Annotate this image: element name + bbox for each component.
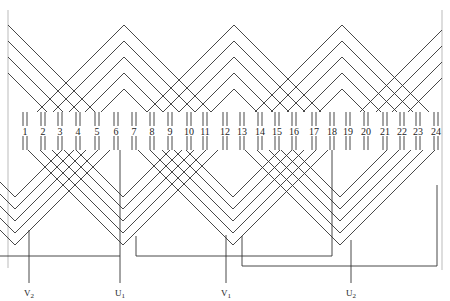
slot-label: 14 [255, 126, 265, 137]
slot-labels: 123456789101112131415161718192021222324 [23, 126, 442, 137]
winding-diagram: 123456789101112131415161718192021222324 … [0, 0, 450, 301]
slot-label: 3 [58, 126, 63, 137]
slot-label: 13 [237, 126, 247, 137]
lead-U1: U1 [115, 150, 126, 300]
slot-label: 4 [76, 126, 81, 137]
top-coil-end [85, 73, 163, 112]
top-coil-end [37, 25, 211, 112]
slot-label: 18 [327, 126, 337, 137]
bottom-coil-end [0, 150, 62, 197]
slot-label: 24 [431, 126, 441, 137]
slot-label: 8 [150, 126, 155, 137]
lead-V2: V2 [24, 230, 35, 300]
bottom-coil-end [0, 150, 86, 221]
bottom-coil-end [186, 150, 280, 197]
top-coil-end [179, 57, 289, 112]
top-coil-end [69, 57, 179, 112]
top-coil-end [101, 89, 147, 112]
top-coil-end [8, 57, 63, 112]
slot-label: 6 [114, 126, 119, 137]
slot-label: 11 [200, 126, 210, 137]
lead-label: U2 [346, 288, 357, 300]
bottom-coil-end [0, 150, 110, 245]
slot-label: 7 [132, 126, 137, 137]
top-coil-end [392, 62, 442, 112]
slot-label: 16 [289, 126, 299, 137]
lead-label: V1 [221, 288, 232, 300]
top-coil-end [147, 25, 321, 112]
lead-V1: V1 [221, 235, 232, 300]
slot-label: 21 [380, 126, 390, 137]
slot-label: 15 [272, 126, 282, 137]
lead-label: V2 [24, 288, 35, 300]
phase-leads: V2U1V1U2 [0, 150, 437, 300]
bottom-coil-end [269, 150, 411, 221]
top-coil-end [8, 73, 47, 112]
slot-label: 17 [309, 126, 319, 137]
slot-label: 22 [397, 126, 407, 137]
lead-label: U1 [115, 288, 126, 300]
bottom-coil-end [76, 150, 170, 197]
slot-label: 19 [343, 126, 353, 137]
top-coil-end [319, 89, 365, 112]
top-coil-end [376, 46, 442, 112]
slot-label: 2 [41, 126, 46, 137]
bottom-coil-end [293, 150, 387, 197]
top-coil-end [271, 41, 413, 112]
slot-label: 9 [168, 126, 173, 137]
top-coil-end [408, 78, 442, 112]
lead-U2: U2 [346, 240, 357, 300]
slot-label: 20 [361, 126, 371, 137]
top-coil-end [8, 41, 79, 112]
slot-conductors [23, 112, 438, 150]
slot-label: 5 [95, 126, 100, 137]
top-coil-end [211, 89, 257, 112]
slot-label: 1 [23, 126, 28, 137]
slot-label: 23 [413, 126, 423, 137]
slot-label: 12 [220, 126, 230, 137]
top-coil-end [8, 25, 95, 112]
top-coil-end [287, 57, 397, 112]
phase-connector [242, 185, 437, 266]
slot-label: 10 [184, 126, 194, 137]
